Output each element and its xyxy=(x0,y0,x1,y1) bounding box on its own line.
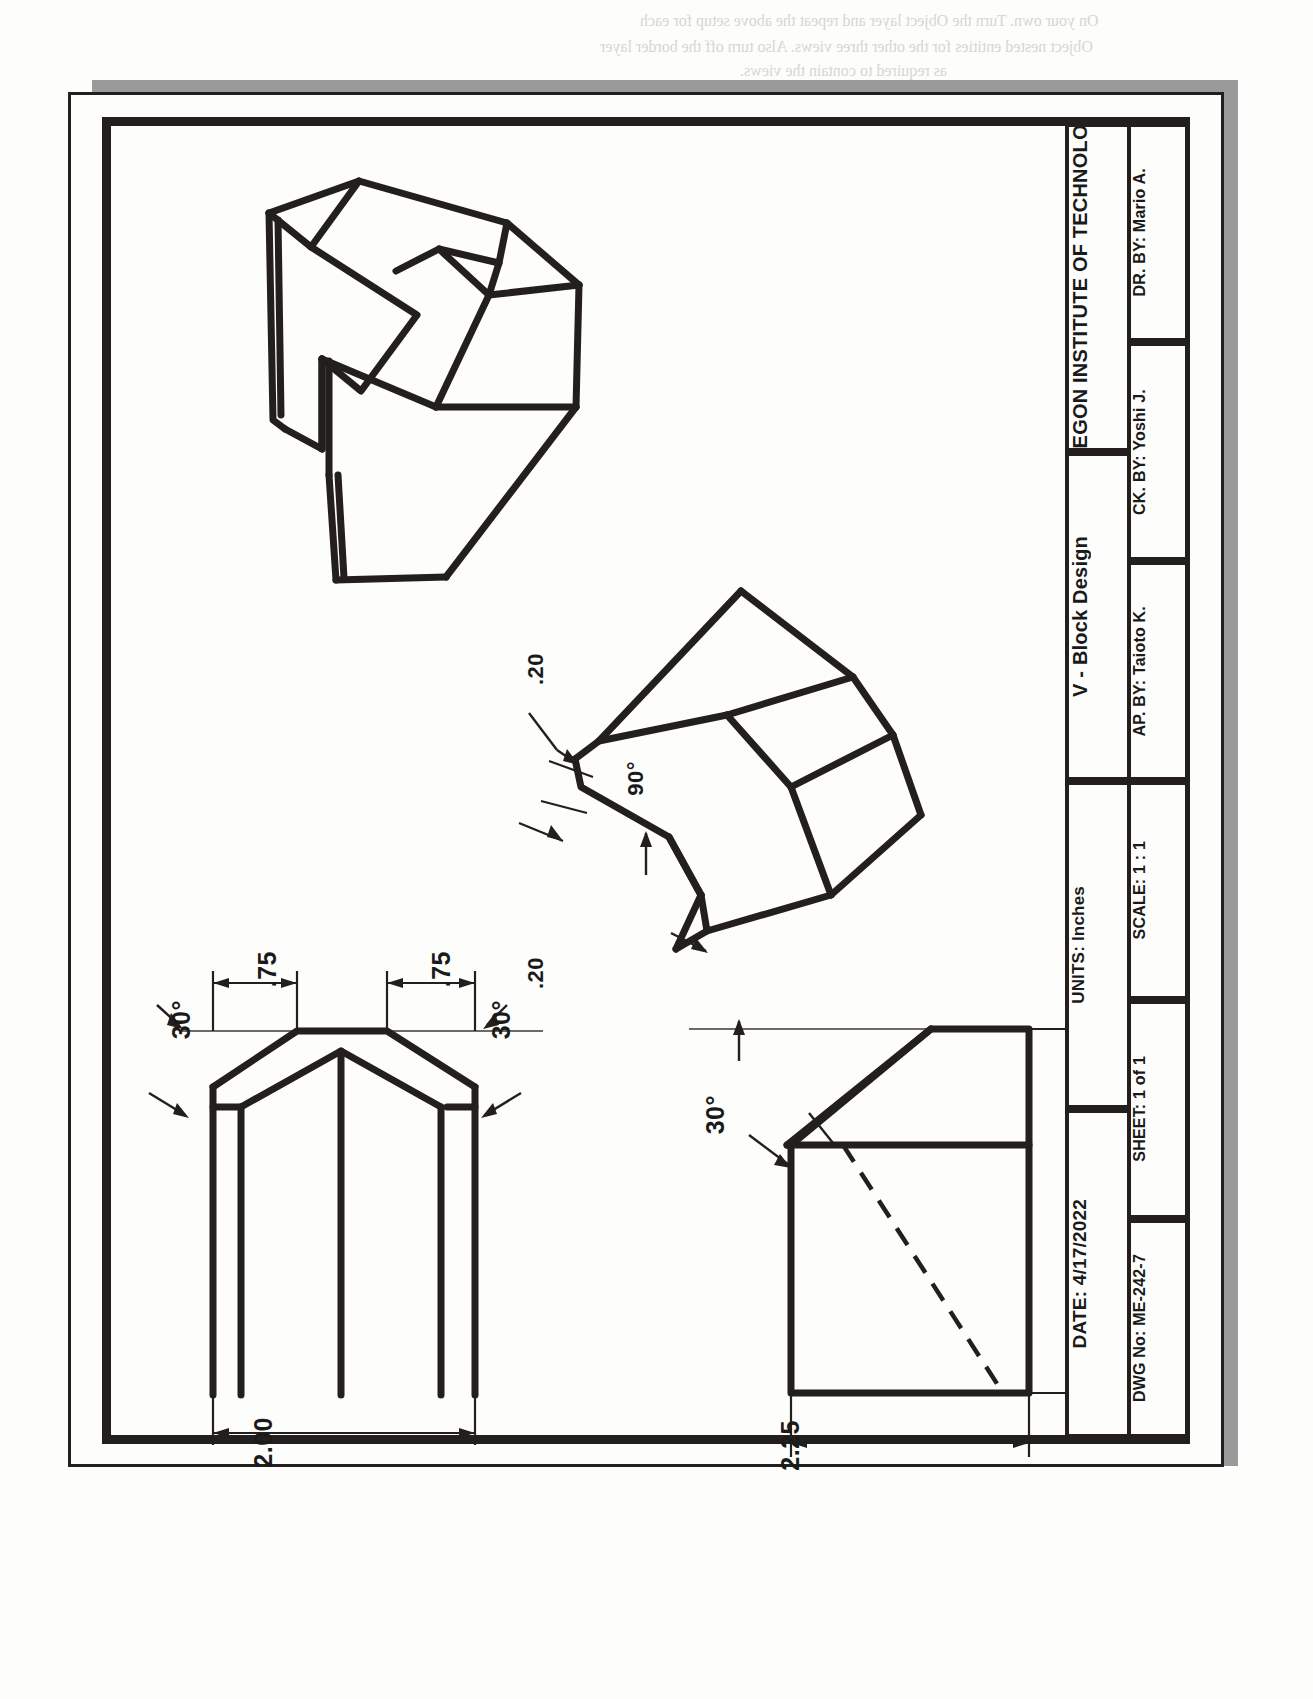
drawing-title: V - Block Design xyxy=(1069,530,1092,703)
dim-text-top-left-angle: 30° xyxy=(167,1000,196,1039)
top-view xyxy=(191,975,561,1405)
drawn-by-value: DR. BY: Mario A. xyxy=(1131,162,1149,303)
title-block-units-cell: UNITS: Inches xyxy=(1069,781,1127,1110)
scale-value: SCALE: 1 : 1 xyxy=(1131,835,1149,945)
dim-text-right-width: .75 xyxy=(427,951,456,987)
title-block-company-cell: OREGON INSTITUTE OF TECHNOLOGY xyxy=(1069,123,1127,452)
dim-text-left-width: .75 xyxy=(253,951,282,987)
isometric-view xyxy=(181,175,601,595)
dim-text-chamfer-a: .20 xyxy=(523,653,549,685)
title-block-scale-cell: SCALE: 1 : 1 xyxy=(1131,781,1185,1000)
pictorial-view xyxy=(501,565,971,995)
bleed-line-3: as required to contain the views. xyxy=(740,62,947,80)
right-side-view xyxy=(631,975,1071,1405)
title-block-column-right: DR. BY: Mario A. CK. BY: Yoshi J. AP. BY… xyxy=(1127,123,1189,1438)
dim-text-depth: 2.25 xyxy=(776,1420,805,1471)
title-block-drawn-by-cell: DR. BY: Mario A. xyxy=(1131,123,1185,342)
sheet-value: SHEET: 1 of 1 xyxy=(1131,1050,1149,1168)
dwg-no-value: DWG No: ME-242-7 xyxy=(1131,1248,1149,1408)
title-block-dwg-no-cell: DWG No: ME-242-7 xyxy=(1131,1219,1185,1438)
title-block-sheet-cell: SHEET: 1 of 1 xyxy=(1131,1000,1185,1219)
company-name: OREGON INSTITUTE OF TECHNOLOGY xyxy=(1069,123,1092,452)
title-block: OREGON INSTITUTE OF TECHNOLOGY V - Block… xyxy=(1065,123,1191,1438)
title-block-column-left: OREGON INSTITUTE OF TECHNOLOGY V - Block… xyxy=(1065,123,1127,1438)
dim-text-chamfer-b: .20 xyxy=(523,957,549,989)
title-block-title-cell: V - Block Design xyxy=(1069,452,1127,781)
title-block-date-cell: DATE: 4/17/2022 xyxy=(1069,1109,1127,1438)
approved-by-value: AP. BY: Taioto K. xyxy=(1131,600,1149,743)
dim-text-top-right-angle: 30° xyxy=(487,1000,516,1039)
drawing-page: On your own. Turn the Object layer and r… xyxy=(0,0,1313,1699)
dim-text-overall-width: 2.00 xyxy=(249,1417,278,1468)
date-value: DATE: 4/17/2022 xyxy=(1069,1193,1091,1354)
title-block-checked-by-cell: CK. BY: Yoshi J. xyxy=(1131,342,1185,561)
views-container: 30° 30° .75 .75 2.00 30° 3.00 2.25 .20 .… xyxy=(71,95,1227,1470)
title-block-approved-by-cell: AP. BY: Taioto K. xyxy=(1131,561,1185,780)
dim-text-side-angle: 30° xyxy=(701,1095,730,1134)
units-value: UNITS: Inches xyxy=(1069,880,1089,1010)
dim-text-vee-angle: 90° xyxy=(623,761,649,796)
checked-by-value: CK. BY: Yoshi J. xyxy=(1131,383,1149,521)
drawing-sheet: 30° 30° .75 .75 2.00 30° 3.00 2.25 .20 .… xyxy=(68,92,1224,1467)
